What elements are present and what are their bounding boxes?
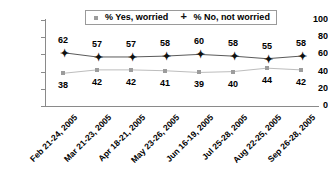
data-value-label: 40 <box>220 80 246 89</box>
data-point-marker: ✦ <box>298 53 305 60</box>
data-point-marker: ✦ <box>128 53 135 60</box>
data-point-marker <box>95 68 99 72</box>
data-point-marker <box>163 69 167 73</box>
data-point-marker <box>61 71 65 75</box>
data-value-label: 41 <box>152 79 178 88</box>
data-point-marker: ✦ <box>60 49 67 56</box>
data-value-label: 60 <box>186 37 212 46</box>
data-value-label: 58 <box>152 39 178 48</box>
data-point-marker <box>197 70 201 74</box>
line-chart: 100806040200 % Yes, worried % No, not wo… <box>0 0 328 185</box>
data-point-marker: ✦ <box>162 53 169 60</box>
data-point-marker: ✦ <box>94 53 101 60</box>
data-point-marker <box>265 66 269 70</box>
data-value-label: 38 <box>50 81 76 90</box>
data-point-marker <box>129 68 133 72</box>
data-point-marker: ✦ <box>230 53 237 60</box>
data-point-marker <box>299 68 303 72</box>
data-value-label: 58 <box>220 39 246 48</box>
data-value-label: 42 <box>288 78 314 87</box>
data-point-marker <box>231 70 235 74</box>
data-value-label: 44 <box>254 76 280 85</box>
data-value-label: 55 <box>254 42 280 51</box>
data-value-label: 42 <box>84 78 110 87</box>
data-value-label: 62 <box>50 36 76 45</box>
y-axis-tick-mark <box>41 89 45 90</box>
y-axis-tick-mark <box>41 37 45 38</box>
data-point-marker: ✦ <box>196 51 203 58</box>
data-point-marker: ✦ <box>264 55 271 62</box>
data-value-label: 58 <box>288 39 314 48</box>
data-value-label: 57 <box>118 40 144 49</box>
data-value-label: 39 <box>186 80 212 89</box>
x-axis-labels: Feb 21-24, 2005Mar 21-23, 2005Apr 18-21,… <box>0 107 328 185</box>
plot-area: ✦✦✦✦✦✦✦✦ 3842424139404442625757586058555… <box>46 20 318 106</box>
y-axis-tick-mark <box>41 20 45 21</box>
series-lines <box>46 20 318 106</box>
y-axis-tick-mark <box>41 72 45 73</box>
data-value-label: 42 <box>118 78 144 87</box>
data-value-label: 57 <box>84 40 110 49</box>
y-axis-tick-mark <box>41 54 45 55</box>
